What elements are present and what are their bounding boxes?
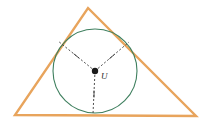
incenter-label: U	[101, 71, 108, 81]
incenter-point	[92, 68, 98, 74]
figure-background	[0, 0, 207, 128]
figure-canvas: U	[0, 0, 207, 128]
incircle-diagram: U	[0, 0, 207, 128]
